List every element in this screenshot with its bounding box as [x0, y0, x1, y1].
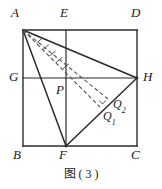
- right-angle-square: [99, 101, 106, 104]
- label-q2-subscript: 2: [122, 106, 126, 115]
- label-q1-base: Q: [103, 109, 112, 123]
- tick-mark-1: [37, 38, 43, 43]
- label-a: A: [11, 6, 19, 19]
- segment-f-h: [66, 78, 137, 146]
- label-c: C: [131, 148, 140, 161]
- label-b: B: [13, 148, 21, 161]
- label-f: F: [59, 148, 67, 161]
- label-q2: Q2: [113, 98, 126, 113]
- label-d: D: [131, 6, 140, 19]
- figure-caption: 图 ( 3 ): [0, 164, 162, 182]
- geometry-figure-container: A E D G H P Q1 Q2 B F C 图 ( 3 ): [0, 0, 162, 189]
- label-g: G: [9, 70, 18, 83]
- label-p: P: [56, 83, 64, 96]
- vertex-dot-h: [136, 77, 139, 80]
- label-q1-subscript: 1: [112, 118, 116, 127]
- midlines: [23, 30, 137, 146]
- rectangle-abcd: [23, 30, 137, 146]
- triangle-afh: [23, 30, 137, 146]
- label-h: H: [143, 70, 152, 83]
- label-q2-base: Q: [113, 97, 122, 111]
- right-angle-marker: [99, 101, 106, 104]
- segment-a-h: [23, 30, 137, 78]
- label-e: E: [60, 6, 68, 19]
